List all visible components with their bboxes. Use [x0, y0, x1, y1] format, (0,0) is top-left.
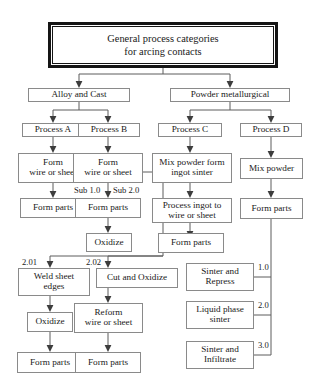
edge-label-sub-2-0: Sub 2.0 — [113, 186, 139, 195]
sinter-infiltrate-line-2: Infiltrate — [201, 355, 239, 365]
node-weld-sheet-edges: Weld sheet edges — [18, 268, 90, 296]
node-form-parts-b: Form parts — [75, 198, 141, 218]
node-reform-wire-or-sheet: Reform wire or sheet — [74, 303, 143, 333]
form-wire-b-line-2: wire or sheet — [84, 168, 131, 178]
weld-sheet-line-2: edges — [34, 282, 74, 292]
node-form-parts-d: Form parts — [240, 198, 303, 219]
node-mix-powder: Mix powder — [240, 158, 303, 179]
node-process-c: Process C — [158, 123, 222, 137]
title-line-1: General process categories — [107, 32, 218, 45]
form-wire-a-line-2: wire or sheet — [29, 168, 76, 178]
edge-label-1-0: 1.0 — [258, 263, 269, 272]
edge-label-sub-1-0: Sub 1.0 — [74, 186, 100, 195]
node-sinter-and-repress: Sinter and Repress — [186, 263, 254, 291]
node-sinter-and-infiltrate: Sinter and Infiltrate — [186, 341, 254, 369]
node-mix-powder-form-ingot-sinter: Mix powder form ingot sinter — [152, 153, 232, 183]
edge-label-3-0: 3.0 — [258, 341, 269, 350]
node-form-parts-c: Form parts — [158, 233, 224, 253]
edge-label-2-01: 2.01 — [22, 258, 37, 267]
node-process-d: Process D — [240, 123, 302, 137]
liquid-phase-line-2: sinter — [196, 315, 244, 325]
edge-label-2-0: 2.0 — [258, 301, 269, 310]
title-box: General process categories for arcing co… — [48, 22, 278, 68]
reform-wire-line-2: wire or sheet — [85, 318, 132, 328]
node-process-a: Process A — [22, 123, 84, 137]
node-alloy-and-cast: Alloy and Cast — [28, 88, 130, 102]
node-form-parts-reform: Form parts — [75, 352, 141, 373]
node-oxidize-b: Oxidize — [86, 233, 132, 252]
node-liquid-phase-sinter: Liquid phase sinter — [186, 301, 254, 329]
flowchart-diagram: General process categories for arcing co… — [0, 0, 328, 389]
node-cut-and-oxidize: Cut and Oxidize — [96, 268, 178, 288]
mix-powder-form-line-2: ingot sinter — [159, 168, 224, 178]
process-ingot-line-1: Process ingot to — [163, 201, 222, 211]
title-line-2: for arcing contacts — [107, 45, 218, 58]
process-ingot-line-2: wire or sheet — [163, 211, 222, 221]
node-oxidize-weld: Oxidize — [27, 312, 73, 332]
node-process-ingot-to-wire-or-sheet: Process ingot to wire or sheet — [152, 198, 232, 223]
node-form-wire-or-sheet-b: Form wire or sheet — [73, 153, 143, 183]
node-process-b: Process B — [78, 123, 140, 137]
edge-label-2-02: 2.02 — [86, 258, 101, 267]
node-form-parts-weld: Form parts — [17, 352, 83, 373]
node-powder-metallurgical: Powder metallurgical — [170, 88, 290, 102]
sinter-repress-line-2: Repress — [201, 277, 239, 287]
